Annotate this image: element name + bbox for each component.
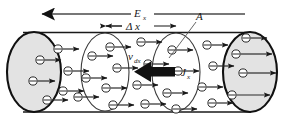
drift-velocity-label: v: [128, 50, 133, 62]
right-end-cap: [223, 32, 277, 112]
electric-field-label: E: [133, 7, 141, 19]
diagram-canvas: E x Δ x A v dx J x: [0, 0, 283, 120]
area-label: A: [195, 10, 203, 22]
current-density-cylinder-figure: E x Δ x A v dx J x: [0, 0, 283, 120]
delta-x-label: Δ x: [125, 20, 140, 32]
drift-velocity-subscript: dx: [134, 57, 142, 65]
